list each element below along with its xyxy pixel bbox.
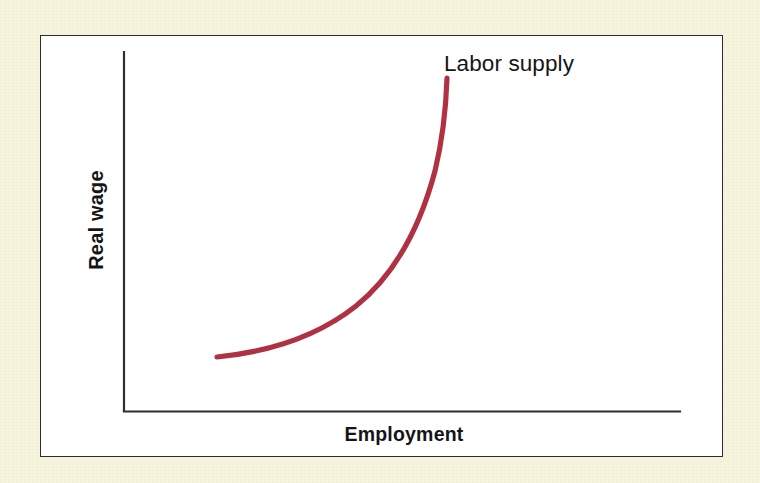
figure-canvas: Real wage Employment Labor supply: [0, 0, 760, 483]
labor-supply-curve: [217, 78, 447, 357]
y-axis-label: Real wage: [85, 170, 108, 270]
labor-supply-annotation: Labor supply: [444, 51, 574, 77]
x-axis-label: Employment: [344, 423, 463, 446]
plot-area: [0, 0, 760, 483]
